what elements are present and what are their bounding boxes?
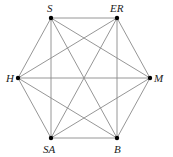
graph-canvas <box>0 0 173 157</box>
edge-B-H <box>18 78 117 138</box>
node-label-SA: SA <box>43 144 55 155</box>
node-label-H: H <box>6 73 14 84</box>
node-M <box>148 76 152 80</box>
edge-ER-M <box>117 18 150 78</box>
node-H <box>16 76 20 80</box>
node-label-S: S <box>47 3 53 14</box>
node-label-ER: ER <box>110 3 123 14</box>
edge-M-B <box>117 78 150 138</box>
node-S <box>49 16 53 20</box>
edge-ER-H <box>18 18 117 78</box>
edge-SA-H <box>18 78 51 138</box>
edge-M-SA <box>51 78 150 138</box>
node-SA <box>49 136 53 140</box>
node-label-M: M <box>154 73 163 84</box>
node-ER <box>115 16 119 20</box>
node-B <box>115 136 119 140</box>
node-label-B: B <box>114 144 121 155</box>
edge-S-H <box>18 18 51 78</box>
